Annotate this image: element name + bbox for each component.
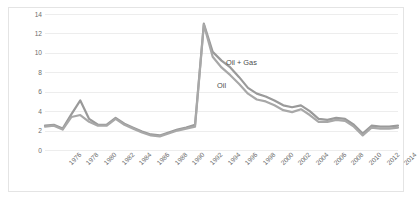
y-axis-tick-labels: 02468101214: [20, 14, 42, 150]
x-axis-tick-label: 2008: [350, 151, 366, 167]
series-line-oil-gas: [45, 24, 398, 136]
y-axis-tick-label: 4: [20, 108, 42, 115]
y-axis-tick-label: 8: [20, 69, 42, 76]
x-axis-tick-label: 1984: [138, 151, 154, 167]
series-label-oil: Oil: [217, 82, 226, 90]
x-axis-tick-label: 1976: [67, 151, 83, 167]
x-axis-tick-label: 2002: [297, 151, 313, 167]
x-axis-tick-label: 1992: [208, 151, 224, 167]
x-axis-tick-label: 2014: [402, 151, 418, 167]
x-axis-tick-label: 2000: [279, 151, 295, 167]
x-axis-tick-label: 2004: [314, 151, 330, 167]
y-axis-tick-label: 2: [20, 127, 42, 134]
x-axis-tick-label: 1982: [120, 151, 136, 167]
series-label-oil-gas: Oil + Gas: [226, 59, 257, 67]
x-axis-tick-label: 1980: [102, 151, 118, 167]
x-axis-tick-labels: 1976197819801982198419861988199019921994…: [45, 151, 405, 191]
x-axis-tick-label: 1988: [173, 151, 189, 167]
x-axis-tick-label: 1978: [85, 151, 101, 167]
x-axis-tick-label: 2012: [385, 151, 401, 167]
y-axis-tick-label: 10: [20, 49, 42, 56]
x-axis-tick-label: 1996: [244, 151, 260, 167]
x-axis-tick-label: 1986: [155, 151, 171, 167]
y-axis-tick-label: 14: [20, 11, 42, 18]
x-axis-tick-label: 1990: [191, 151, 207, 167]
x-axis-tick-label: 2010: [367, 151, 383, 167]
x-axis-tick-label: 2006: [332, 151, 348, 167]
y-axis-tick-label: 0: [20, 147, 42, 154]
y-axis-tick-label: 6: [20, 88, 42, 95]
y-axis-tick-label: 12: [20, 30, 42, 37]
x-axis-tick-label: 1994: [226, 151, 242, 167]
x-axis-tick-label: 1998: [261, 151, 277, 167]
